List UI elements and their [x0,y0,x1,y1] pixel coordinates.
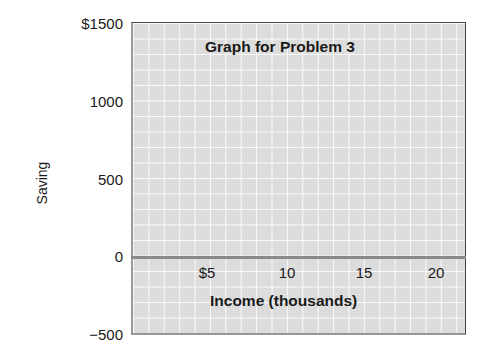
chart-title: Graph for Problem 3 [205,38,355,56]
y-axis-label: Saving [34,162,50,205]
x-axis-label: Income (thousands) [210,292,357,310]
y-tick-0: 0 [115,249,123,264]
zero-axis-line [131,256,466,259]
y-tick-1500: $1500 [81,16,123,31]
x-tick-5: $5 [199,265,216,280]
x-tick-10: 10 [279,265,296,280]
y-tick-500: 500 [98,172,123,187]
y-tick-1000: 1000 [90,94,123,109]
x-tick-15: 15 [356,265,373,280]
chart-plot-area [131,22,466,335]
x-tick-20: 20 [428,265,445,280]
y-tick-neg500: −500 [89,327,123,342]
